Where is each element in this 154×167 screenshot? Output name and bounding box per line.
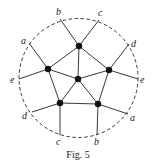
- figure-caption: Fig. 5: [66, 149, 89, 160]
- pendant-edge: [32, 103, 60, 112]
- graph-figure: bcadeedacb Fig. 5: [0, 0, 154, 167]
- endpoint-label-e: e: [10, 74, 15, 85]
- edge: [78, 79, 98, 104]
- vertex-top: [76, 43, 82, 49]
- edge: [60, 103, 98, 104]
- pendant-edge: [29, 43, 48, 69]
- endpoint-label-e: e: [140, 74, 145, 85]
- edge: [78, 46, 79, 79]
- vertex-center: [75, 76, 81, 82]
- vertex-left: [45, 66, 51, 72]
- pendant-edge: [19, 69, 48, 79]
- endpoint-label-d: d: [22, 110, 28, 121]
- edge: [98, 70, 109, 104]
- vertex-right: [106, 67, 112, 73]
- vertex-bottom-left: [57, 100, 63, 106]
- endpoint-label-b: b: [94, 136, 99, 147]
- edge: [48, 69, 60, 103]
- pendant-edge: [109, 70, 138, 79]
- edge: [48, 69, 78, 79]
- pendant-edge: [60, 19, 79, 46]
- pendant-edge: [98, 104, 128, 114]
- endpoint-label-c: c: [98, 7, 103, 18]
- endpoint-label-d: d: [131, 38, 137, 49]
- edge: [48, 46, 79, 69]
- pendant-edge: [109, 44, 129, 70]
- pendant-edge: [97, 104, 98, 135]
- endpoint-label-c: c: [56, 136, 61, 147]
- edge: [78, 70, 109, 79]
- endpoint-label-b: b: [56, 6, 61, 17]
- endpoint-label-a: a: [21, 35, 26, 46]
- vertex-bottom-right: [95, 101, 101, 107]
- endpoint-label-a: a: [130, 112, 135, 123]
- pendant-edge: [79, 20, 99, 46]
- edge: [60, 79, 78, 103]
- edge: [79, 46, 109, 70]
